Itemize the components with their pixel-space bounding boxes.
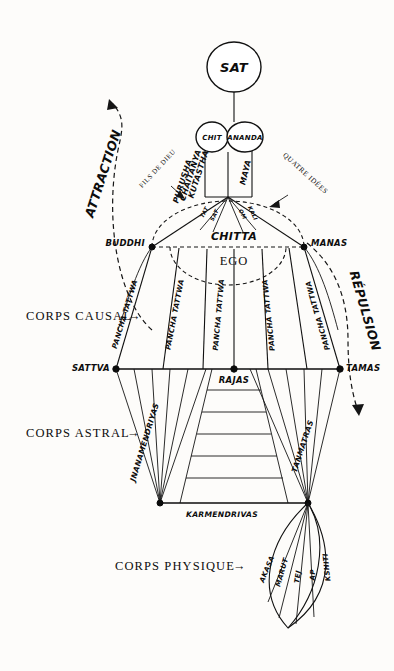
ananda-label: ANANDA (226, 134, 263, 142)
vedantic-cosmology-diagram: SAT CHIT ANANDA KUTASTHA CHAITANYA PURUS… (0, 0, 394, 671)
corps-causal-arrow: → (128, 309, 142, 323)
karmendriyas-left-node (157, 500, 163, 506)
element-rib-3 (296, 503, 308, 624)
pancha-tattwa-3: PANCHA TATTWA (211, 279, 226, 351)
physical-body-outline-left (269, 503, 320, 628)
pancha-tattwa-4: PANCHA TATTWA (260, 279, 276, 351)
idea-tat-label: TAT (199, 205, 210, 219)
sat-label: SAT (220, 60, 249, 75)
astral-left-fan-5 (160, 369, 188, 503)
buddhi-label: BUDDHI (105, 238, 145, 248)
element-rib-4 (308, 503, 314, 617)
ladder-right-rail (256, 369, 288, 503)
pancha-tattwa-2: PANCHA TATTWA (163, 278, 186, 350)
rajas-node (231, 366, 237, 372)
repulsion-arc (307, 243, 357, 408)
corps-physique-label: CORPS PHYSIQUE (115, 559, 235, 573)
element-ap-label: AP (309, 569, 317, 582)
repulsion-label: RÉPULSION (347, 269, 384, 353)
astral-left-fan-4 (160, 369, 170, 503)
attraction-label: ATTRACTION (81, 128, 124, 221)
ladder-left-rail (180, 369, 212, 503)
manas-label: MANAS (311, 238, 347, 248)
diagram-canvas: SAT CHIT ANANDA KUTASTHA CHAITANYA PURUS… (0, 0, 394, 671)
pancha-tattwa-5: PANCHA TATTWA (303, 280, 331, 352)
astral-right-fan-6 (250, 369, 308, 503)
sattva-label: SATTVA (72, 363, 110, 373)
causal-col-5 (289, 248, 307, 369)
quatre-idees-label: QUATRE IDÉES (281, 150, 331, 196)
corps-causal-label: CORPS CAUSAL (26, 309, 132, 323)
chitta-label: CHITTA (211, 230, 257, 243)
element-akasa-label: AKASA (258, 555, 276, 585)
chit-label: CHIT (202, 134, 223, 142)
idea-kali-label: KALI (247, 205, 259, 221)
repulsion-arrowhead (352, 404, 364, 416)
quatre-idees-arrowhead (269, 200, 280, 208)
tamas-label: TAMAS (346, 363, 380, 373)
corps-astral-arrow: → (127, 426, 141, 440)
physical-body-outline-right (288, 503, 326, 628)
corps-astral-label: CORPS ASTRAL (26, 426, 130, 440)
element-kshiti-label: KSHITI (322, 553, 333, 582)
astral-right-fan-1 (308, 369, 340, 503)
jnanamendriyas-label: JNANAMENDRIYAS (128, 402, 161, 485)
astral-left-fan-6 (160, 369, 206, 503)
causal-col-2 (203, 249, 207, 369)
fils-de-dieu-label: FILS DE DIEU (138, 148, 177, 189)
corps-physique-arrow: → (233, 559, 247, 573)
rajas-label: RAJAS (219, 375, 250, 385)
maya-label: MAYA (238, 159, 253, 186)
karmendriyas-label: KARMENDRIVAS (186, 510, 258, 519)
element-tej-label: TEJ (293, 570, 303, 584)
